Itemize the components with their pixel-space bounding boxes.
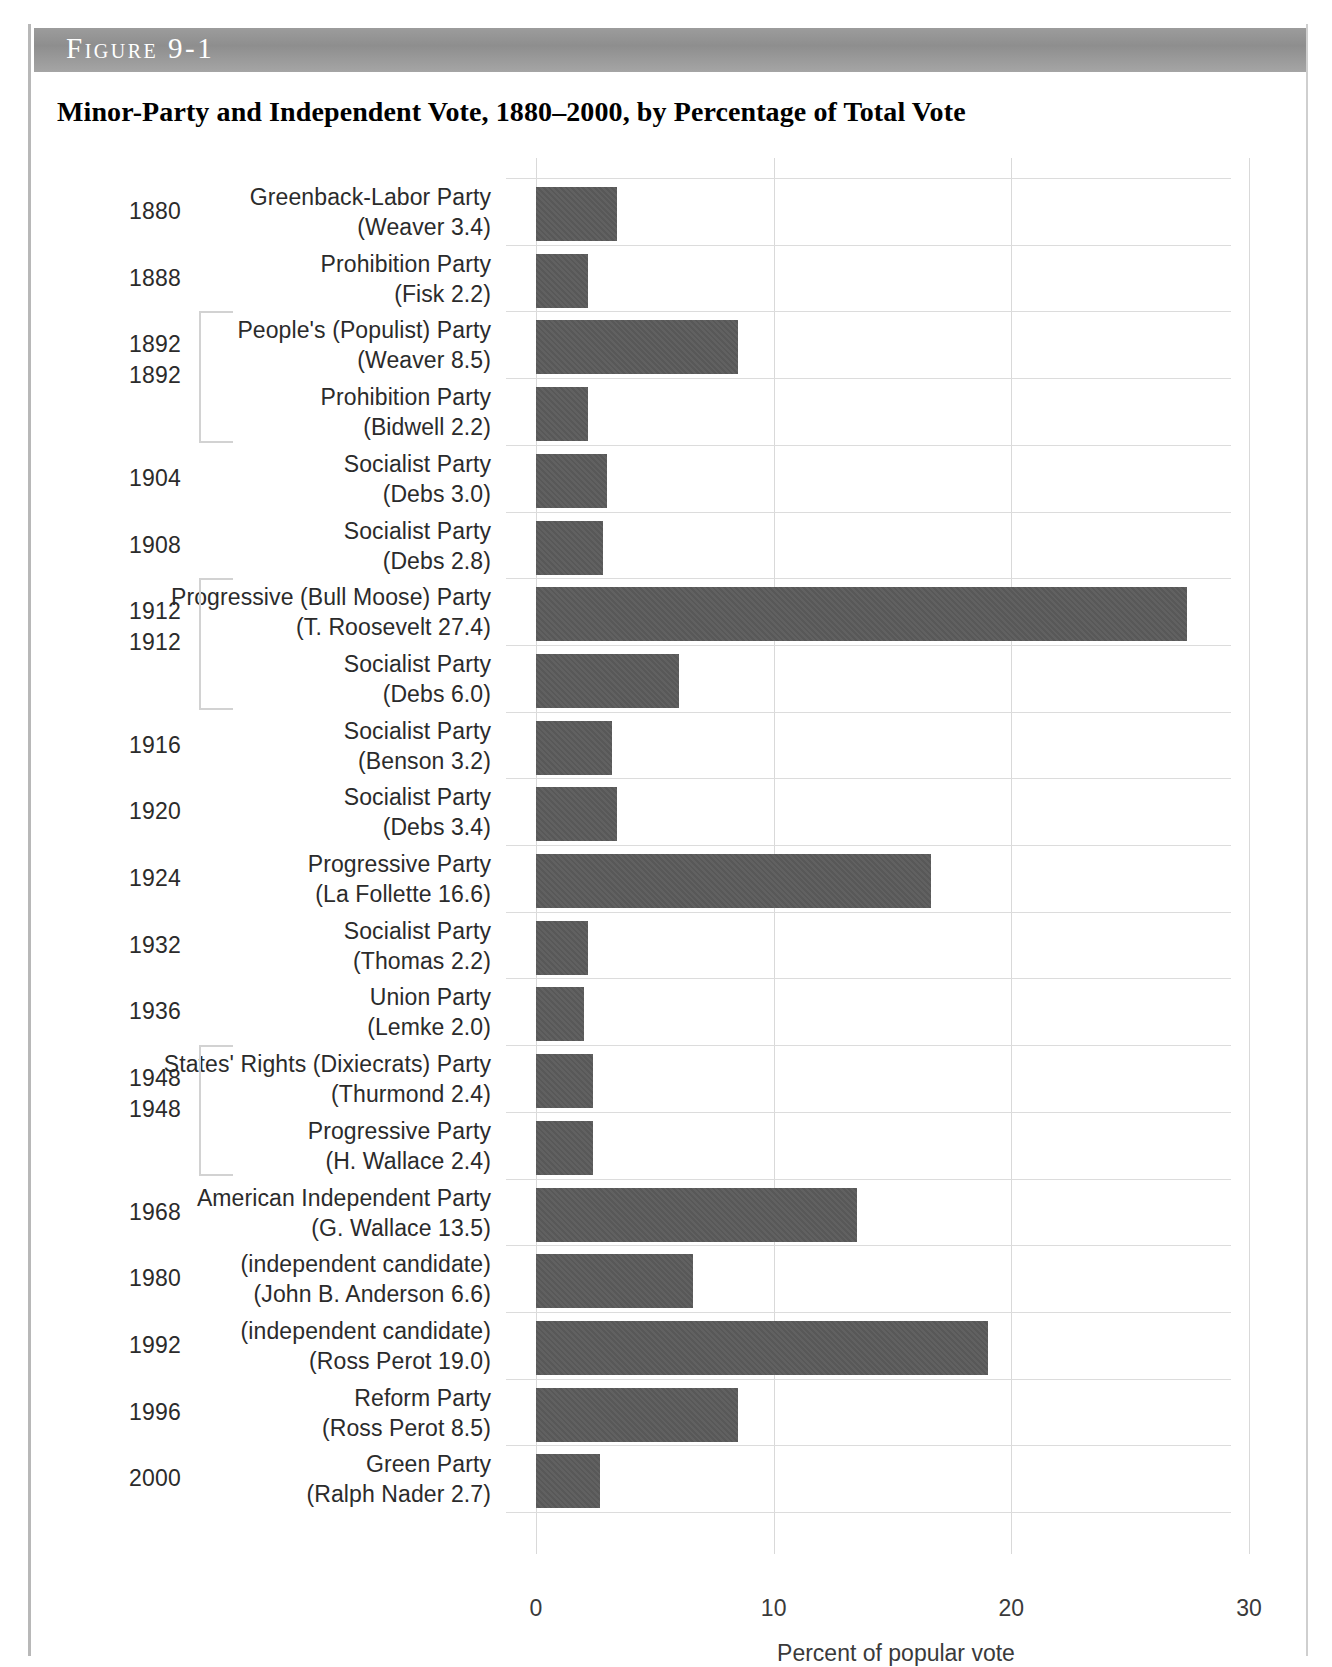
chart-row: 1992(independent candidate)(Ross Perot 1… (31, 1318, 1311, 1385)
chart-row: 1980(independent candidate)(John B. Ande… (31, 1251, 1311, 1318)
bar (536, 787, 617, 841)
bar (536, 654, 679, 708)
year-group-bracket (199, 1045, 233, 1176)
bar (536, 721, 612, 775)
row-label: Reform Party(Ross Perot 8.5) (0, 1383, 491, 1443)
candidate-and-value: (Bidwell 2.2) (0, 412, 491, 442)
year-label-group: 1892 (71, 362, 181, 389)
figure-number-label: Figure 9-1 (66, 32, 214, 65)
candidate-and-value: (Benson 3.2) (0, 746, 491, 776)
row-label: Union Party(Lemke 2.0) (0, 982, 491, 1042)
chart-row: 1916Socialist Party(Benson 3.2) (31, 718, 1311, 785)
party-name: Progressive Party (308, 851, 491, 877)
row-label: Prohibition Party(Fisk 2.2) (0, 249, 491, 309)
chart-row: 2000Green Party(Ralph Nader 2.7) (31, 1451, 1311, 1518)
candidate-and-value: (Ralph Nader 2.7) (0, 1479, 491, 1509)
candidate-and-value: (Debs 3.4) (0, 812, 491, 842)
row-label: (independent candidate)(John B. Anderson… (0, 1249, 491, 1309)
bar (536, 1054, 593, 1108)
chart-row: 1908Socialist Party(Debs 2.8) (31, 518, 1311, 585)
bar (536, 320, 738, 374)
party-name: Prohibition Party (321, 251, 491, 277)
party-name: (independent candidate) (241, 1251, 491, 1277)
party-name: Green Party (366, 1451, 491, 1477)
x-axis-tick-20: 20 (981, 1595, 1041, 1622)
row-label: Socialist Party(Thomas 2.2) (0, 916, 491, 976)
party-name: Socialist Party (344, 918, 491, 944)
chart-row: 1996Reform Party(Ross Perot 8.5) (31, 1385, 1311, 1452)
bar (536, 854, 931, 908)
bar-chart: 1880Greenback-Labor Party(Weaver 3.4)188… (31, 132, 1311, 1632)
candidate-and-value: (La Follette 16.6) (0, 879, 491, 909)
row-label: Prohibition Party(Bidwell 2.2) (0, 382, 491, 442)
party-name: Socialist Party (344, 518, 491, 544)
bar (536, 187, 617, 241)
chart-row: 1924Progressive Party(La Follette 16.6) (31, 851, 1311, 918)
candidate-and-value: (Fisk 2.2) (0, 279, 491, 309)
row-label: Progressive Party(H. Wallace 2.4) (0, 1116, 491, 1176)
row-label: Socialist Party(Debs 3.0) (0, 449, 491, 509)
chart-row: 1904Socialist Party(Debs 3.0) (31, 451, 1311, 518)
bar (536, 454, 607, 508)
row-label: Socialist Party(Benson 3.2) (0, 716, 491, 776)
party-name: Socialist Party (344, 784, 491, 810)
chart-row: 1880Greenback-Labor Party(Weaver 3.4) (31, 184, 1311, 251)
row-label: Progressive Party(La Follette 16.6) (0, 849, 491, 909)
row-label: Socialist Party(Debs 2.8) (0, 516, 491, 576)
row-label: American Independent Party(G. Wallace 13… (0, 1183, 491, 1243)
party-name: Progressive Party (308, 1118, 491, 1144)
candidate-and-value: (Ross Perot 19.0) (0, 1346, 491, 1376)
party-name: Socialist Party (344, 718, 491, 744)
row-label: Green Party(Ralph Nader 2.7) (0, 1449, 491, 1509)
year-label-group: 1948 (71, 1096, 181, 1123)
candidate-and-value: (John B. Anderson 6.6) (0, 1279, 491, 1309)
x-axis-tick-0: 0 (506, 1595, 566, 1622)
bar (536, 921, 588, 975)
chart-row: 1936Union Party(Lemke 2.0) (31, 984, 1311, 1051)
bar (536, 987, 584, 1041)
year-group-bracket (199, 311, 233, 442)
row-label: Socialist Party(Debs 6.0) (0, 649, 491, 709)
party-name: (independent candidate) (241, 1318, 491, 1344)
bar (536, 1454, 600, 1508)
bar (536, 587, 1187, 641)
candidate-and-value: (G. Wallace 13.5) (0, 1213, 491, 1243)
party-name: Socialist Party (344, 451, 491, 477)
candidate-and-value: (Ross Perot 8.5) (0, 1413, 491, 1443)
figure-container: Figure 9-1 Minor-Party and Independent V… (28, 24, 1308, 1656)
gridline-horizontal (506, 178, 1231, 179)
candidate-and-value: (Debs 6.0) (0, 679, 491, 709)
x-axis-tick-10: 10 (744, 1595, 804, 1622)
bar (536, 387, 588, 441)
candidate-and-value: (Debs 2.8) (0, 546, 491, 576)
candidate-and-value: (Debs 3.0) (0, 479, 491, 509)
bar (536, 1254, 693, 1308)
bar (536, 521, 603, 575)
chart-row: 1968American Independent Party(G. Wallac… (31, 1185, 1311, 1252)
figure-title: Minor-Party and Independent Vote, 1880–2… (57, 96, 1257, 128)
year-group-bracket (199, 578, 233, 709)
bar (536, 1121, 593, 1175)
row-label: (independent candidate)(Ross Perot 19.0) (0, 1316, 491, 1376)
party-name: Union Party (370, 984, 491, 1010)
x-axis-tick-30: 30 (1219, 1595, 1279, 1622)
year-label-group: 1912 (71, 629, 181, 656)
candidate-and-value: (Weaver 3.4) (0, 212, 491, 242)
bar (536, 254, 588, 308)
party-name: Prohibition Party (321, 384, 491, 410)
party-name: Reform Party (354, 1385, 491, 1411)
bar (536, 1188, 857, 1242)
row-label: Greenback-Labor Party(Weaver 3.4) (0, 182, 491, 242)
party-name: American Independent Party (197, 1185, 491, 1211)
figure-banner: Figure 9-1 (34, 28, 1306, 72)
row-label: Socialist Party(Debs 3.4) (0, 782, 491, 842)
bar (536, 1388, 738, 1442)
party-name: Greenback-Labor Party (250, 184, 491, 210)
chart-row: 1932Socialist Party(Thomas 2.2) (31, 918, 1311, 985)
candidate-and-value: (Thomas 2.2) (0, 946, 491, 976)
party-name: Socialist Party (344, 651, 491, 677)
bar (536, 1321, 988, 1375)
candidate-and-value: (Lemke 2.0) (0, 1012, 491, 1042)
x-axis-title: Percent of popular vote (536, 1640, 1256, 1667)
chart-row: 1888Prohibition Party(Fisk 2.2) (31, 251, 1311, 318)
